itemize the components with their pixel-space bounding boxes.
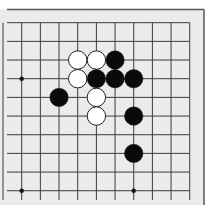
black-stone-icon[interactable] <box>125 144 143 162</box>
white-stone-icon[interactable] <box>69 70 87 88</box>
go-board[interactable] <box>0 0 211 205</box>
black-stone-icon[interactable] <box>106 70 124 88</box>
board-background <box>0 10 204 206</box>
black-stone-icon[interactable] <box>125 107 143 125</box>
black-stone-icon[interactable] <box>125 70 143 88</box>
black-stone-icon[interactable] <box>87 70 105 88</box>
white-stone-icon[interactable] <box>87 107 105 125</box>
star-point-icon <box>20 77 24 81</box>
white-stone-icon[interactable] <box>87 51 105 69</box>
black-stone-icon[interactable] <box>106 51 124 69</box>
white-stone-icon[interactable] <box>69 51 87 69</box>
star-point-icon <box>132 189 136 193</box>
star-point-icon <box>20 189 24 193</box>
white-stone-icon[interactable] <box>87 88 105 106</box>
black-stone-icon[interactable] <box>50 88 68 106</box>
